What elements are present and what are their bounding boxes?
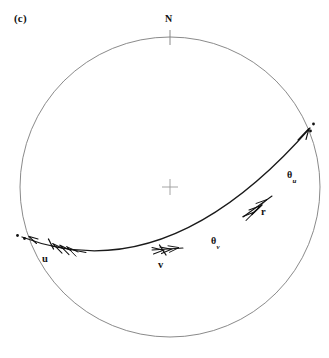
angle-theta-u-label: θu xyxy=(287,170,296,183)
stereonet-canvas xyxy=(0,0,329,358)
theta-v-glyph: θ xyxy=(211,235,216,246)
stereonet-figure: (c) N u v r θu θv xyxy=(0,0,329,358)
pole-left-double-dot-marker xyxy=(16,234,26,240)
great-circle-arc xyxy=(22,128,310,251)
point-u-marker xyxy=(49,239,87,256)
theta-u-glyph: θ xyxy=(287,169,292,180)
center-cross-icon xyxy=(162,179,178,195)
point-r-marker xyxy=(243,196,272,221)
angle-theta-v-label: θv xyxy=(211,236,219,249)
theta-u-subscript: u xyxy=(293,177,297,185)
point-v-marker xyxy=(152,245,183,255)
vector-u-label: u xyxy=(42,254,48,265)
panel-label: (c) xyxy=(14,13,27,24)
theta-v-subscript: v xyxy=(217,243,220,251)
arrowhead-right-outer xyxy=(298,129,309,141)
vector-v-label: v xyxy=(158,260,163,271)
north-label: N xyxy=(165,14,172,24)
vector-r-label: r xyxy=(261,207,266,218)
